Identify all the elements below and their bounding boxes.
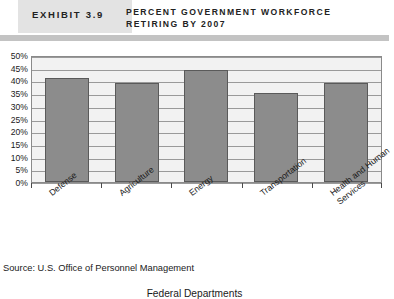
y-axis-tick-label: 45% [11, 64, 28, 73]
y-axis-tick-label: 25% [11, 115, 28, 124]
exhibit-title-line-1: PERCENT GOVERNMENT WORKFORCE [126, 7, 376, 19]
x-axis-label-slot: Agriculture [101, 188, 171, 248]
source-note: Source: U.S. Office of Personnel Managem… [3, 263, 194, 273]
y-axis-tick-label: 5% [16, 166, 28, 175]
x-axis-label-slot: Energy [171, 188, 241, 248]
y-axis-tick-labels: 50%45%40%35%30%25%20%15%10%5%0% [0, 48, 30, 183]
bar-slot [32, 57, 102, 182]
y-axis-tick-label: 15% [11, 140, 28, 149]
y-axis-tick-label: 30% [11, 102, 28, 111]
plot-area [31, 56, 382, 183]
header-divider-rule [0, 35, 389, 41]
exhibit-header: EXHIBIT 3.9 PERCENT GOVERNMENT WORKFORCE… [0, 0, 389, 38]
bar-slot [172, 57, 242, 182]
bar-slot [102, 57, 172, 182]
x-axis-label-slot: Transportation [242, 188, 312, 248]
y-axis-tick-label: 40% [11, 77, 28, 86]
bars-container [32, 57, 381, 182]
x-axis-label-slot: Health and HumanServices [312, 188, 382, 248]
x-axis-label-slot: Defense [31, 188, 101, 248]
exhibit-title: PERCENT GOVERNMENT WORKFORCE RETIRING BY… [126, 7, 376, 30]
exhibit-title-line-2: RETIRING BY 2007 [126, 19, 376, 31]
y-axis-tick-label: 35% [11, 90, 28, 99]
y-axis-tick-label: 10% [11, 153, 28, 162]
bar-energy [184, 70, 228, 182]
y-axis-tick-label: 20% [11, 128, 28, 137]
bar-chart: 50%45%40%35%30%25%20%15%10%5%0% DefenseA… [0, 48, 389, 238]
bar-defense [45, 78, 89, 182]
y-axis-tick-label: 50% [11, 52, 28, 61]
y-axis-tick-label: 0% [16, 179, 28, 188]
x-axis-category-labels: DefenseAgricultureEnergyTransportationHe… [31, 188, 382, 248]
x-axis-title: Federal Departments [0, 288, 389, 299]
exhibit-number-label: EXHIBIT 3.9 [32, 9, 104, 20]
